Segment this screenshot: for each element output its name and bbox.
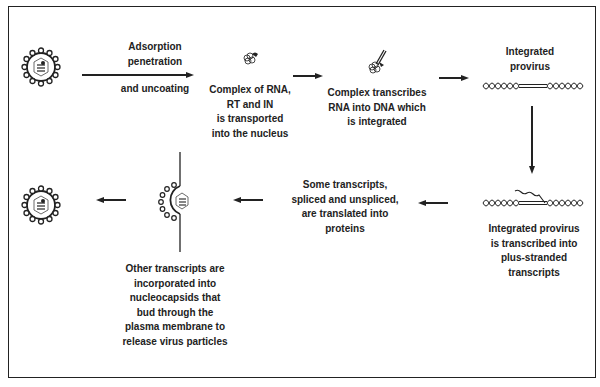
transcribes-label: Complex transcribes RNA into DNA which i… [322, 86, 432, 130]
transcribing-provirus-icon [483, 188, 583, 212]
provirus-dna-icon [483, 80, 583, 92]
uncoating-label: and uncoating [100, 82, 210, 97]
translated-label: Some transcripts, spliced and unspliced,… [285, 178, 405, 236]
virus-particle-icon [20, 46, 62, 88]
plus-strand-label: Integrated provirus is transcribed into … [484, 222, 584, 280]
rna-complex-icon [241, 50, 261, 66]
arrow-left-1 [418, 199, 448, 207]
released-virus-icon [20, 184, 62, 226]
arrow-right-2 [293, 72, 323, 80]
complex-label: Complex of RNA, RT and IN is transported… [200, 83, 300, 141]
provirus-label: Integrated provirus [490, 45, 570, 74]
arrow-left-2 [233, 196, 263, 204]
arrow-right-3 [439, 74, 469, 82]
budding-label: Other transcripts are incorporated into … [115, 262, 235, 349]
arrow-right-1 [82, 71, 194, 79]
adsorption-label: Adsorption penetration [100, 40, 210, 69]
budding-virus-icon [150, 152, 190, 252]
arrow-left-3 [96, 196, 126, 204]
arrow-down [528, 106, 536, 174]
reverse-transcription-complex-icon [366, 48, 388, 76]
